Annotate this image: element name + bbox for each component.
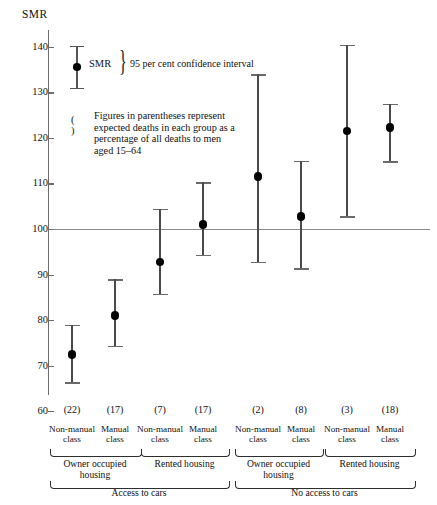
housing-label-line-1: Rented housing: [141, 459, 228, 470]
housing-group-brace: [325, 449, 416, 457]
data-point-errorbar: [383, 104, 398, 163]
class-label-line-2: class: [361, 434, 419, 444]
data-point-errorbar: [340, 45, 355, 218]
data-point-marker: [111, 311, 120, 320]
class-label-line-2: class: [174, 434, 232, 444]
data-point-errorbar: [294, 161, 309, 270]
y-axis-line: [48, 30, 49, 395]
chart-figure: SMR 60708090100110120130140 SMR } 95 per…: [0, 0, 437, 505]
errorbar-lower-cap: [153, 294, 168, 296]
x-axis-percentage-label: (18): [361, 404, 419, 415]
legend-ci-label: 95 per cent confidence interval: [130, 58, 254, 69]
errorbar-lower-cap: [294, 268, 309, 270]
legend-note-line-4: aged 15–64: [94, 145, 309, 157]
y-tick-mark: [48, 138, 54, 139]
housing-label-line-1: Rented housing: [325, 459, 414, 470]
housing-group-label: Owner occupiedhousing: [50, 459, 140, 480]
errorbar-lower-cap: [108, 346, 123, 348]
data-point-marker: [254, 172, 263, 181]
errorbar-stem: [389, 104, 391, 163]
y-tick-label: 140: [22, 42, 48, 52]
y-tick-label: 80: [22, 315, 48, 325]
y-tick-mark: [48, 366, 54, 367]
y-axis-title: SMR: [22, 8, 48, 20]
reference-line-100: [48, 229, 430, 230]
class-label-line-1: Manual: [361, 424, 419, 434]
data-point-marker: [156, 258, 165, 267]
housing-group-brace: [235, 449, 324, 457]
errorbar-lower-cap: [196, 255, 211, 257]
legend-note-line-3: percentage of all deaths to men: [94, 133, 309, 145]
housing-group-label: Rented housing: [325, 459, 414, 470]
errorbar-lower-cap: [383, 161, 398, 163]
y-tick-mark: [48, 183, 54, 184]
data-point-errorbar: [108, 279, 123, 347]
y-tick-label: 100: [22, 224, 48, 234]
housing-group-brace: [50, 449, 142, 457]
data-point-marker: [343, 127, 352, 136]
legend-note: Figures in parentheses represent expecte…: [94, 110, 309, 156]
housing-group-brace: [141, 449, 230, 457]
data-point-marker: [386, 123, 395, 132]
y-tick-mark: [48, 275, 54, 276]
legend-note-line-1: Figures in parentheses represent: [94, 110, 309, 122]
y-tick-label: 90: [22, 270, 48, 280]
x-axis-class-label: Manualclass: [361, 424, 419, 444]
data-point-marker: [68, 350, 77, 359]
errorbar-stem: [202, 182, 204, 256]
legend-parenthesis-symbol: ( ): [71, 114, 75, 136]
housing-label-line-1: Owner occupied: [50, 459, 140, 470]
y-tick-label: 120: [22, 133, 48, 143]
legend-brace-icon: }: [119, 45, 127, 75]
y-tick-mark: [48, 320, 54, 321]
data-point-errorbar: [65, 325, 80, 384]
housing-label-line-1: Owner occupied: [235, 459, 322, 470]
y-tick-mark: [48, 229, 54, 230]
class-label-line-1: Manual: [174, 424, 232, 434]
y-tick-label: 130: [22, 87, 48, 97]
x-axis-class-label: Manualclass: [174, 424, 232, 444]
legend-errorbar-sample: [70, 44, 84, 90]
data-point-errorbar: [196, 182, 211, 256]
errorbar-stem: [257, 74, 259, 263]
car-group-label: Access to cars: [50, 488, 228, 499]
y-tick-label: 70: [22, 361, 48, 371]
data-point-errorbar: [153, 209, 168, 296]
car-group-label: No access to cars: [235, 488, 414, 499]
errorbar-lower-cap: [65, 382, 80, 384]
data-point-marker: [199, 220, 208, 229]
y-tick-mark: [48, 92, 54, 93]
legend-smr-label: SMR: [89, 58, 111, 69]
legend-point-marker: [73, 63, 81, 71]
housing-label-line-2: housing: [50, 470, 140, 481]
housing-group-label: Owner occupiedhousing: [235, 459, 322, 480]
errorbar-lower-cap: [251, 262, 266, 264]
housing-group-label: Rented housing: [141, 459, 228, 470]
data-point-errorbar: [251, 74, 266, 263]
y-tick-mark: [48, 47, 54, 48]
errorbar-stem: [159, 209, 161, 296]
housing-label-line-2: housing: [235, 470, 322, 481]
data-point-marker: [297, 212, 306, 221]
y-tick-label: 110: [22, 178, 48, 188]
errorbar-lower-cap: [340, 216, 355, 218]
legend-note-line-2: expected deaths in each group as a: [94, 122, 309, 134]
x-axis-percentage-label: (17): [174, 404, 232, 415]
